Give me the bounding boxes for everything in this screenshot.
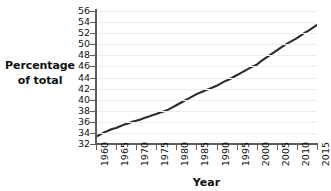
y-axis-tick-label: 44	[70, 73, 90, 83]
y-axis-tick	[90, 78, 95, 79]
y-axis-tick	[90, 33, 95, 34]
gridline	[96, 111, 317, 112]
y-axis-tick	[90, 111, 95, 112]
x-axis-tick	[116, 145, 117, 150]
y-axis-tick-label: 40	[70, 95, 90, 105]
gridline	[96, 100, 317, 101]
gridline	[96, 122, 317, 123]
y-axis-tick	[90, 133, 95, 134]
gridline	[96, 78, 317, 79]
x-axis-tick-label: 1985	[200, 142, 210, 172]
x-axis-tick	[277, 145, 278, 150]
y-axis-tick	[90, 122, 95, 123]
x-axis-tick-label: 2000	[261, 142, 271, 172]
y-axis-tick	[90, 89, 95, 90]
y-axis-spine	[95, 9, 97, 145]
y-axis-tick	[90, 11, 95, 12]
gridline	[96, 133, 317, 134]
y-axis-tick	[90, 144, 95, 145]
y-axis-tick-label: 32	[70, 139, 90, 149]
x-axis-tick-label: 2015	[321, 142, 331, 172]
gridline	[96, 44, 317, 45]
gridline	[96, 33, 317, 34]
y-axis-tick	[90, 100, 95, 101]
y-axis-tick-label: 34	[70, 128, 90, 138]
x-axis-tick	[257, 145, 258, 150]
x-axis-tick	[317, 145, 318, 150]
x-axis-tick-label: 1980	[180, 142, 190, 172]
x-axis-tick-label: 1970	[140, 142, 150, 172]
x-axis-tick-label: 2010	[301, 142, 311, 172]
y-axis-tick-label: 38	[70, 106, 90, 116]
x-axis-tick	[217, 145, 218, 150]
gridline	[96, 66, 317, 67]
x-axis-tick	[136, 145, 137, 150]
y-axis-tick-label: 54	[70, 17, 90, 27]
y-axis-tick-labels: 32343638404244464850525456	[66, 0, 90, 160]
x-axis-tick	[176, 145, 177, 150]
x-axis-tick-label: 1960	[100, 142, 110, 172]
x-axis-tick-label: 1995	[241, 142, 251, 172]
x-axis-tick-label: 1965	[120, 142, 130, 172]
gridline	[96, 11, 317, 12]
x-axis-tick	[96, 145, 97, 150]
x-axis-tick	[297, 145, 298, 150]
x-axis-tick-label: 1990	[221, 142, 231, 172]
x-axis-title: Year	[96, 176, 317, 189]
x-axis-tick	[196, 145, 197, 150]
gridline	[96, 89, 317, 90]
x-axis-tick-label: 2005	[281, 142, 291, 172]
y-axis-tick	[90, 66, 95, 67]
y-axis-tick	[90, 44, 95, 45]
y-axis-tick-label: 50	[70, 39, 90, 49]
plot-area	[96, 11, 317, 144]
x-axis-tick	[237, 145, 238, 150]
y-axis-tick-label: 46	[70, 61, 90, 71]
y-axis-tick-label: 52	[70, 28, 90, 38]
y-axis-tick-label: 42	[70, 84, 90, 94]
y-axis-tick	[90, 55, 95, 56]
y-axis-tick-label: 56	[70, 6, 90, 16]
gridline	[96, 22, 317, 23]
y-axis-tick-label: 48	[70, 50, 90, 60]
gridline	[96, 55, 317, 56]
y-axis-tick	[90, 22, 95, 23]
y-axis-tick-label: 36	[70, 117, 90, 127]
x-axis-tick-label: 1975	[160, 142, 170, 172]
x-axis-tick	[156, 145, 157, 150]
